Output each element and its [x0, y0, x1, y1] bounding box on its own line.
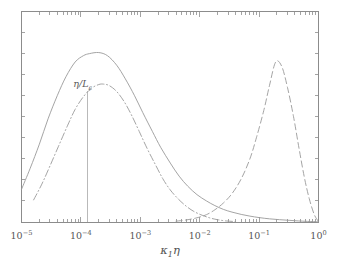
x-axis-title: κ1η	[159, 243, 180, 259]
x-tick-label: 10−3	[129, 229, 151, 241]
x-axis-ticks	[22, 12, 319, 223]
dashed-curve	[176, 61, 318, 222]
x-tick-label: 10−1	[248, 229, 270, 241]
x-tick-label: 100	[310, 229, 326, 241]
annotation-eta-over-L-epsilon: η/Lε	[73, 78, 92, 92]
solid-curve	[22, 52, 319, 221]
x-tick-label: 10−2	[189, 229, 211, 241]
spectra-figure: η/Lε 10−510−410−310−210−1100 κ1η	[0, 0, 341, 263]
x-axis-tick-labels: 10−510−410−310−210−1100	[11, 229, 327, 241]
dash-dot-curve	[34, 84, 236, 222]
x-tick-label: 10−4	[70, 229, 92, 241]
plot-frame	[22, 12, 319, 223]
x-tick-label: 10−5	[11, 229, 33, 241]
y-axis-ticks	[22, 33, 319, 201]
curve-group	[22, 52, 319, 221]
plot-canvas: η/Lε 10−510−410−310−210−1100 κ1η	[0, 0, 341, 263]
